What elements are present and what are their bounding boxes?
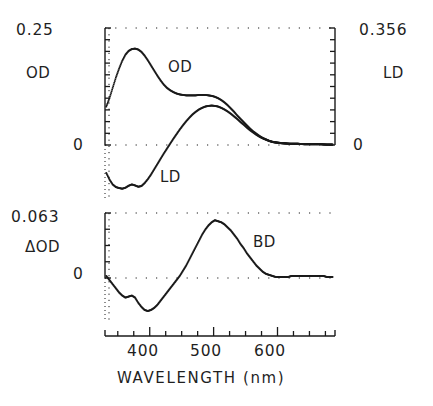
spectroscopy-figure: 0.25 OD 0 0.356 LD 0 OD LD 0.063 ΔOD 0 B… [0,0,433,406]
series-od-points [105,48,333,146]
top-left-axis-title: OD [26,64,50,82]
top-right-axis-max-label: 0.356 [359,21,407,39]
x-axis-title: WAVELENGTH (nm) [117,369,285,387]
bottom-left-axis-title: ΔOD [25,238,60,256]
top-right-axis-title: LD [383,64,404,82]
curve-label-bd: BD [253,233,276,251]
bottom-left-axis-zero-label: 0 [73,265,84,283]
xtick-label-400: 400 [127,342,159,360]
top-left-axis-max-label: 0.25 [16,21,54,39]
curve-label-ld: LD [160,168,181,186]
top-left-axis-zero-label: 0 [73,136,84,154]
xtick-label-600: 600 [254,342,286,360]
series-ld-points [105,105,333,190]
series-bd-points [105,219,333,312]
bottom-left-axis-max-label: 0.063 [11,208,59,226]
x-axis [105,327,335,336]
top-panel-right-ticks [330,40,335,134]
curve-label-od: OD [168,58,192,76]
top-right-axis-zero-label: 0 [353,136,364,154]
xtick-label-500: 500 [190,342,222,360]
